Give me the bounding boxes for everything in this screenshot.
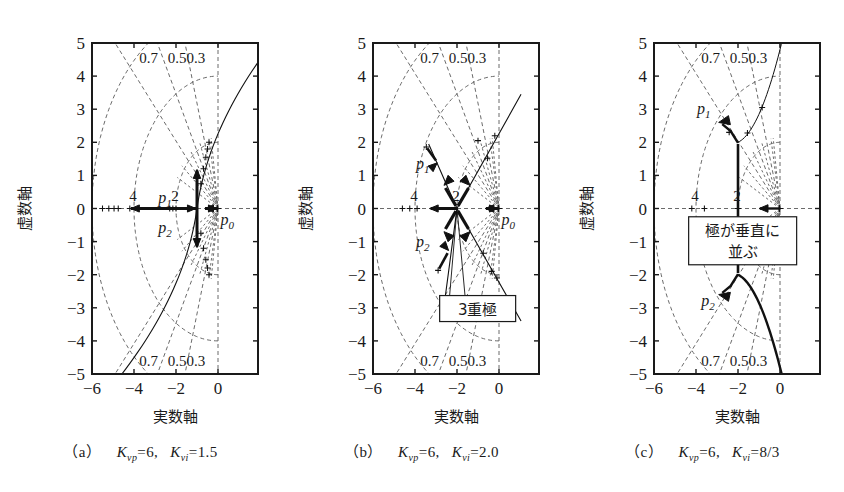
- y-tick-label: −3: [629, 299, 647, 318]
- tick-labels: −6−4−20543210−1−2−3−4−5: [629, 34, 784, 398]
- x-tick-label: −2: [729, 379, 747, 398]
- y-tick-label: 2: [77, 133, 86, 152]
- y-tick-label: 1: [358, 166, 367, 185]
- y-tick-label: 1: [77, 166, 86, 185]
- pole-label-p1: p1: [696, 100, 711, 120]
- locus-arrow: [460, 232, 470, 242]
- caption-index: （c）: [625, 444, 663, 460]
- pole-label-p1: p1: [157, 189, 172, 209]
- y-tick-label: −5: [67, 365, 85, 384]
- damping-label-top: 0.7: [420, 50, 439, 66]
- caption-index: （b）: [344, 444, 383, 460]
- pole-label-p1: p1: [415, 155, 430, 175]
- y-axis-title: 虚数軸: [297, 186, 315, 231]
- y-tick-label: 2: [639, 133, 648, 152]
- y-tick-label: −3: [67, 299, 85, 318]
- wn-label-4: 4: [691, 188, 699, 204]
- y-tick-label: 5: [358, 34, 367, 53]
- y-tick-label: 0: [639, 200, 648, 219]
- locus-gain-mark: [206, 139, 212, 145]
- damping-label-bottom: 0.7: [139, 353, 158, 369]
- panel-caption-b: （b） Kvp=6, Kvi=2.0: [281, 440, 562, 463]
- locus-gain-mark: [198, 230, 204, 236]
- x-tick-label: −6: [364, 379, 382, 398]
- y-tick-label: 0: [77, 200, 86, 219]
- x-tick-label: −4: [687, 379, 706, 398]
- y-tick-label: 4: [639, 67, 648, 86]
- locus-gain-mark: [701, 206, 707, 212]
- damping-label-bottom: 0.7: [420, 353, 439, 369]
- locus-gain-mark: [115, 206, 121, 212]
- y-tick-label: 4: [77, 67, 86, 86]
- panel-a: −6−4−20543210−1−2−3−4−50.70.70.50.50.30.…: [0, 0, 281, 492]
- caption-kvi-symbol: K: [732, 444, 742, 460]
- caption-kvi-symbol: K: [170, 444, 180, 460]
- root-locus-figure: −6−4−20543210−1−2−3−4−50.70.70.50.50.30.…: [0, 0, 844, 492]
- x-axis-title: 実数軸: [715, 408, 760, 426]
- panel-b: −6−4−20543210−1−2−3−4−50.70.70.50.50.30.…: [281, 0, 562, 492]
- caption-kvp-subscript: vp: [689, 452, 699, 463]
- x-axis-title: 実数軸: [434, 408, 479, 426]
- locus-gain-mark: [100, 206, 106, 212]
- y-tick-label: −2: [629, 266, 647, 285]
- damping-label-bottom: 0.5: [168, 353, 187, 369]
- damping-label-bottom: 0.3: [749, 353, 768, 369]
- locus-gain-mark: [689, 206, 695, 212]
- caption-kvi-value: =2.0: [470, 444, 499, 460]
- zeta-ray-0.3: [720, 0, 780, 209]
- y-tick-label: −4: [629, 332, 648, 351]
- caption-kvp-value: =6,: [699, 444, 720, 460]
- damping-label-bottom: 0.5: [730, 353, 749, 369]
- caption-kvi-subscript: vi: [462, 452, 470, 463]
- y-tick-label: −1: [629, 233, 647, 252]
- locus-arrow: [440, 241, 449, 250]
- y-tick-label: 1: [639, 166, 648, 185]
- damping-label-top: 0.3: [187, 50, 206, 66]
- locus-upper-left-branch: [722, 124, 738, 143]
- caption-kvi-subscript: vi: [743, 452, 751, 463]
- damping-label-top: 0.7: [701, 50, 720, 66]
- locus-arrow: [430, 205, 439, 212]
- y-tick-label: −3: [348, 299, 366, 318]
- tick-labels: −6−4−20543210−1−2−3−4−5: [348, 34, 503, 398]
- caption-kvp-symbol: K: [678, 444, 688, 460]
- x-tick-label: −4: [125, 379, 144, 398]
- y-tick-label: 3: [77, 100, 86, 119]
- pole-label-p2: p2: [157, 219, 172, 239]
- locus-gain-mark: [106, 206, 112, 212]
- pole-label-p0: p0: [220, 211, 235, 231]
- locus-gain-mark: [201, 245, 207, 251]
- damping-label-top: 0.3: [468, 50, 487, 66]
- p2-callout-arrow-stem: [439, 253, 447, 269]
- damping-label-top: 0.5: [449, 50, 468, 66]
- y-tick-label: 2: [358, 133, 367, 152]
- damping-label-top: 0.5: [168, 50, 187, 66]
- caption-kvi-symbol: K: [452, 444, 462, 460]
- locus-gain-mark: [127, 206, 133, 212]
- annotation-text-line1: 極が垂直に: [705, 222, 780, 240]
- pole-label-p2: p2: [415, 233, 430, 253]
- x-tick-label: 0: [214, 379, 223, 398]
- panel-c: −6−4−20543210−1−2−3−4−50.70.70.50.50.30.…: [562, 0, 843, 492]
- pole-label-p2: p2: [700, 292, 715, 312]
- locus-gain-mark: [735, 206, 741, 212]
- caption-kvp-symbol: K: [398, 444, 408, 460]
- caption-kvp-value: =6,: [137, 444, 158, 460]
- y-tick-label: 4: [358, 67, 367, 86]
- wn-label-2: 2: [452, 188, 460, 204]
- damping-label-bottom: 0.3: [468, 353, 487, 369]
- locus-gain-mark: [407, 206, 413, 212]
- y-tick-label: 3: [358, 100, 367, 119]
- caption-index: （a）: [63, 444, 101, 460]
- locus-lower-left-branch: [722, 274, 738, 293]
- annotation-text: 3重極: [458, 301, 498, 319]
- locus-gain-mark: [173, 206, 179, 212]
- annotation-text-line2: 並ぶ: [728, 243, 758, 261]
- damping-label-top: 0.3: [749, 50, 768, 66]
- y-tick-label: 3: [639, 100, 648, 119]
- damping-label-bottom: 0.5: [449, 353, 468, 369]
- caption-kvi-subscript: vi: [181, 452, 189, 463]
- tick-labels: −6−4−20543210−1−2−3−4−5: [67, 34, 222, 398]
- y-axis-title: 虚数軸: [16, 186, 34, 231]
- x-tick-label: −2: [448, 379, 466, 398]
